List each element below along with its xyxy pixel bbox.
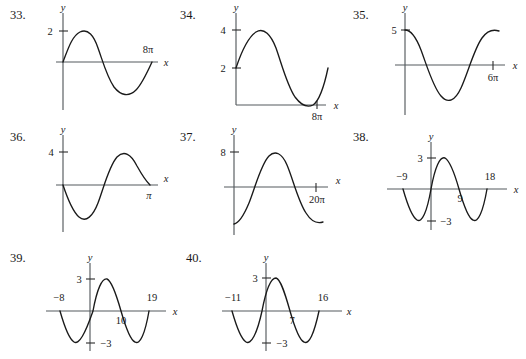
problem-40: 40. 3 −3 −11 7 16 y x (178, 243, 358, 359)
y-tick-label-33: 2 (47, 26, 52, 37)
y-tick-label-pos-38: 3 (417, 153, 422, 164)
problem-number-34: 34. (180, 8, 196, 23)
curve-36 (63, 154, 150, 220)
problem-34: 34. 4 2 y x 8π (172, 0, 347, 125)
x-tick-label-mid-40: 7 (289, 315, 294, 326)
graph-33: 2 y x 8π (48, 5, 173, 117)
y-tick-label-pos-39: 3 (76, 274, 81, 285)
problem-number-37: 37. (180, 130, 196, 145)
problem-number-39: 39. (10, 251, 26, 266)
x-tick-label-right-38: 18 (485, 171, 496, 182)
y-axis-label-39: y (87, 252, 93, 263)
x-tick-label-right-39: 19 (147, 292, 158, 303)
problem-37: 37. 8 y x 20π (172, 122, 347, 240)
curve-33 (63, 31, 152, 95)
x-axis-label-35: x (512, 60, 518, 71)
y-axis-label-33: y (60, 2, 66, 13)
y-axis-label-36: y (60, 124, 66, 135)
x-tick-label-33: 8π (143, 44, 154, 55)
graph-35: 5 y x 6π (387, 5, 522, 123)
exercise-figure-page: 33. 2 y x 8π 34. (0, 0, 526, 359)
curve-40 (232, 278, 319, 342)
problem-number-35: 35. (353, 8, 369, 23)
y-tick-label-pos-40: 3 (252, 273, 257, 284)
x-tick-label-34: 8π (312, 111, 323, 122)
y-tick-label-36: 4 (48, 147, 54, 158)
problem-33: 33. 2 y x 8π (0, 0, 175, 120)
problem-35: 35. 5 y x 6π (345, 0, 526, 125)
y-tick-label-neg-38: −3 (440, 216, 451, 227)
y-tick-label-neg-40: −3 (276, 338, 287, 349)
graph-38: 3 −3 −9 9 18 y x (369, 132, 524, 240)
x-axis-label-37: x (335, 175, 341, 186)
graph-36: 4 y x π (48, 127, 173, 239)
graph-37: 8 y x 20π (216, 127, 346, 239)
x-axis-label-36: x (163, 173, 169, 184)
x-tick-label-right-40: 16 (318, 292, 329, 303)
x-tick-label-left-40: −11 (225, 292, 241, 303)
problem-number-36: 36. (10, 130, 26, 145)
x-axis-label-38: x (513, 184, 519, 195)
y-axis-label-35: y (402, 2, 408, 13)
y-axis-label-38: y (428, 131, 434, 142)
x-tick-label-mid-39: 10 (116, 315, 127, 326)
graph-40: 3 −3 −11 7 16 y x (204, 253, 359, 359)
x-axis-label-40: x (346, 306, 352, 317)
x-axis-label-33: x (163, 57, 169, 68)
y-axis-label-34: y (233, 2, 239, 13)
problem-number-40: 40. (186, 251, 202, 266)
problem-39: 39. 3 −3 −8 10 19 y x (0, 243, 180, 359)
y-tick-label-37: 8 (220, 147, 225, 158)
x-tick-label-37: 20π (309, 194, 326, 205)
problem-number-38: 38. (353, 130, 369, 145)
graph-34: 4 2 y x 8π (214, 5, 344, 123)
x-tick-label-35: 6π (488, 72, 499, 83)
y-axis-label-40: y (263, 252, 269, 263)
y-axis-label-37: y (231, 124, 237, 135)
y-tick-label-neg-39: −3 (100, 338, 111, 349)
x-tick-label-36: π (146, 190, 152, 201)
x-tick-label-left-39: −8 (53, 292, 64, 303)
graph-39: 3 −3 −8 10 19 y x (28, 253, 183, 359)
y-tick-label-35: 5 (391, 25, 396, 36)
curve-34 (236, 30, 328, 106)
problem-number-33: 33. (10, 8, 26, 23)
x-axis-label-39: x (172, 306, 178, 317)
x-tick-label-mid-38: 9 (457, 193, 462, 204)
y-tick-label-2-34: 2 (220, 63, 225, 74)
problem-38: 38. 3 −3 −9 9 18 y x (345, 122, 526, 240)
problem-36: 36. 4 y x π (0, 122, 175, 240)
x-axis-label-34: x (333, 100, 339, 111)
curve-37 (234, 153, 323, 224)
y-tick-label-4-34: 4 (220, 25, 226, 36)
x-tick-label-left-38: −9 (396, 171, 407, 182)
